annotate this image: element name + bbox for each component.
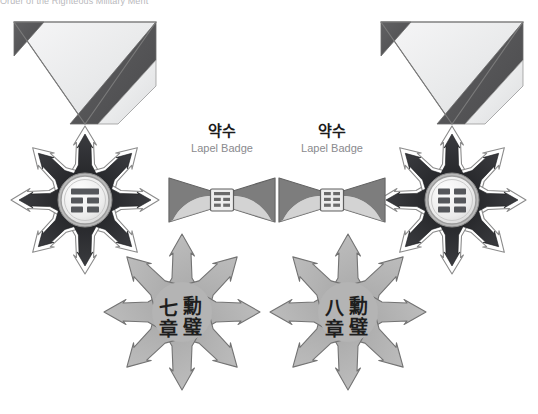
left-medal-art (11, 22, 260, 390)
right-trigram (438, 189, 466, 213)
right-breast-star (378, 126, 526, 274)
left-glyph-2: 章 (159, 318, 178, 340)
left-lower-star (104, 234, 260, 390)
lapel-left-trigram (214, 192, 230, 207)
lapel-right-trigram (324, 192, 340, 207)
right-glyph-0: 八 (325, 297, 345, 319)
right-suspension-ribbon (381, 22, 523, 124)
left-glyph-1: 勳 (183, 295, 202, 317)
right-star-inscription: 八 勳 章 璧 (325, 295, 368, 340)
right-center-medallion (425, 173, 479, 227)
lapel-badge-left-title-ko: 약수 (167, 121, 277, 140)
lapel-badge-right-title-en: Lapel Badge (277, 141, 387, 156)
left-glyph-3: 璧 (183, 316, 202, 338)
left-glyph-0: 七 (159, 297, 178, 319)
artwork-layer: 七 勳 章 璧 八 勳 章 璧 (0, 0, 538, 414)
lapel-badge-left-label: 약수 Lapel Badge (167, 121, 277, 156)
left-breast-star (11, 126, 159, 274)
right-glyph-1: 勳 (349, 295, 368, 317)
lapel-badge-left-title-en: Lapel Badge (167, 141, 277, 156)
left-suspension-ribbon (14, 22, 156, 124)
lapel-badge-right-label: 약수 Lapel Badge (277, 121, 387, 156)
left-trigram (71, 189, 99, 213)
right-glyph-3: 璧 (349, 316, 368, 338)
left-star-inscription: 七 勳 章 璧 (159, 295, 202, 340)
left-center-medallion (58, 173, 112, 227)
diagram-canvas: Order of the Righteous Military Merit (0, 0, 538, 414)
lapel-badge-right-art (279, 178, 385, 222)
right-medal-art (270, 22, 526, 390)
lapel-badge-left-art (169, 178, 275, 222)
right-lower-star (270, 234, 426, 390)
clipped-header-text: Order of the Righteous Military Merit (0, 0, 538, 7)
lapel-badge-right-title-ko: 약수 (277, 121, 387, 140)
right-glyph-2: 章 (325, 318, 344, 340)
